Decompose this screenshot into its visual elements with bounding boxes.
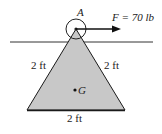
centroid-label: G — [78, 84, 86, 96]
centroid-dot — [73, 88, 76, 91]
free-body-diagram: A F = 70 lb 2 ft 2 ft G 2 ft — [0, 0, 162, 134]
force-arrow-head-icon — [112, 26, 121, 33]
pin-label: A — [76, 6, 84, 18]
side-left-label: 2 ft — [31, 59, 46, 71]
base-label: 2 ft — [67, 112, 82, 124]
force-label: F = 70 lb — [111, 11, 154, 23]
side-right-label: 2 ft — [104, 59, 119, 71]
